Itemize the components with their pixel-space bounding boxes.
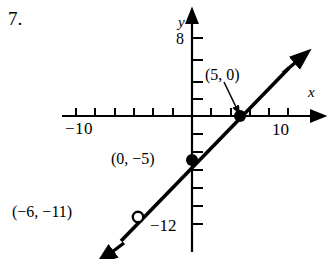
point-label-5-0: (5, 0)	[205, 66, 240, 84]
point-5-0	[234, 110, 246, 122]
y-axis-ticks	[192, 38, 203, 224]
x-axis-ticks	[76, 108, 288, 116]
x-axis	[62, 108, 312, 116]
y-axis-label: y	[178, 14, 185, 31]
point-0-neg5	[186, 154, 198, 166]
point-label-0-neg5: (0, −5)	[111, 150, 155, 168]
y-tick-label-8: 8	[176, 30, 184, 48]
y-axis	[192, 22, 203, 252]
x-axis-label: x	[308, 84, 315, 101]
y-tick-label-neg12: −12	[150, 216, 177, 236]
x-tick-label-10: 10	[272, 120, 289, 140]
x-tick-label-neg10: −10	[65, 119, 93, 139]
point-neg6-neg11	[133, 212, 143, 222]
figure-container: 7. y x 8 −10 10 −12 (5, 0) (0, −5) (−6, …	[0, 0, 335, 259]
problem-number: 7.	[8, 8, 22, 30]
annotation-arrow-5-0	[224, 82, 236, 107]
point-label-neg6-neg11: (−6, −11)	[12, 203, 72, 221]
